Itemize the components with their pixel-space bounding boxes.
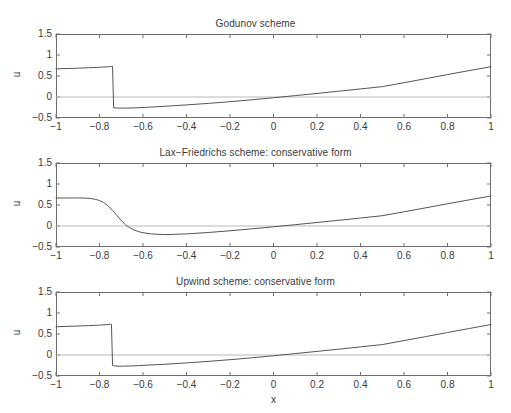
y-tick-label: 1.5 — [22, 286, 52, 297]
x-tick-label: −0.6 — [123, 379, 163, 390]
x-tick-label: −0.2 — [210, 379, 250, 390]
y-tick-label: 0 — [22, 349, 52, 360]
plot-graphics — [0, 0, 511, 413]
x-tick-label: 0.8 — [428, 379, 468, 390]
figure-canvas: Godunov scheme−0.500.511.5−1−0.8−0.6−0.4… — [0, 0, 511, 413]
data-curve — [56, 324, 491, 366]
x-tick-label: 0 — [254, 379, 294, 390]
y-tick-label: 1 — [22, 307, 52, 318]
y-axis-label: u — [11, 323, 22, 343]
x-tick-label: −0.8 — [80, 379, 120, 390]
x-tick-label: −0.4 — [167, 379, 207, 390]
x-tick-label: −1 — [36, 379, 76, 390]
y-tick-label: 0.5 — [22, 328, 52, 339]
x-axis-label: x — [56, 394, 491, 405]
x-tick-label: 0.6 — [384, 379, 424, 390]
x-tick-label: 1 — [471, 379, 511, 390]
x-tick-label: 0.2 — [297, 379, 337, 390]
x-tick-label: 0.4 — [341, 379, 381, 390]
